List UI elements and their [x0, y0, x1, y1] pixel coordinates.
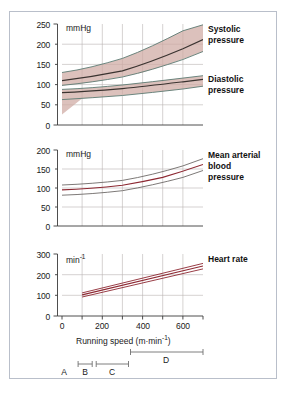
- ytick-label-100: 100: [24, 80, 50, 90]
- chart-panel-systolic-diastolic: 250 200 150 100 50 0 mmHg Systolic press…: [0, 0, 289, 140]
- y-axis-systolic: [54, 24, 58, 125]
- callout-mean-arterial-blood-pressure: Mean arterial blood pressure: [208, 150, 260, 183]
- ytick-label-50: 50: [24, 100, 50, 110]
- ytick-label-0: 0: [24, 121, 50, 131]
- bracket-label-B: B: [78, 367, 92, 377]
- intensity-zone-brackets: A B C D: [0, 340, 289, 393]
- ytick-label-100: 100: [24, 184, 50, 194]
- ytick-label-200: 200: [24, 40, 50, 50]
- xtick-label-600: 600: [172, 321, 194, 331]
- ytick-label-0: 0: [24, 312, 50, 322]
- x-axis-ticks: [62, 316, 203, 320]
- callout-diastolic-pressure: Diastolic pressure: [208, 74, 244, 96]
- callout-diastolic-line1: Diastolic: [208, 74, 244, 85]
- xtick-label-200: 200: [91, 321, 113, 331]
- callout-systolic-line1: Systolic: [208, 24, 244, 35]
- callout-map-line2: blood: [208, 161, 260, 172]
- y-unit-label-mmhg: mmHg: [66, 149, 91, 159]
- callout-map-line3: pressure: [208, 172, 260, 183]
- callout-map-line1: Mean arterial: [208, 150, 260, 161]
- ytick-label-200: 200: [24, 146, 50, 156]
- y-axis-mean-arterial: [54, 150, 58, 226]
- chart-panel-mean-arterial: 200 150 100 50 0 mmHg Mean arterial bloo…: [0, 138, 289, 242]
- ytick-label-250: 250: [24, 20, 50, 30]
- y-unit-label-min-inverse: min-1: [66, 253, 85, 265]
- callout-hr-line1: Heart rate: [208, 254, 248, 265]
- figure-root: 250 200 150 100 50 0 mmHg Systolic press…: [0, 0, 289, 393]
- ytick-label-150: 150: [24, 60, 50, 70]
- bracket-label-A: A: [57, 367, 71, 377]
- callout-diastolic-line2: pressure: [208, 85, 244, 96]
- callout-systolic-pressure: Systolic pressure: [208, 24, 244, 46]
- ytick-label-0: 0: [24, 222, 50, 232]
- bracket-marks: [0, 340, 289, 393]
- bracket-label-C: C: [105, 367, 119, 377]
- xtick-label-0: 0: [51, 321, 73, 331]
- bracket-label-D: D: [159, 355, 173, 365]
- y-unit-label-mmhg: mmHg: [66, 23, 91, 33]
- y-unit-base: min: [66, 255, 80, 265]
- chart-panel-heart-rate: 300 200 100 0 min-1 Heart rate 0 200 400…: [0, 240, 289, 340]
- ytick-label-100: 100: [24, 291, 50, 301]
- y-unit-exponent: -1: [80, 253, 86, 260]
- ytick-label-150: 150: [24, 165, 50, 175]
- ytick-label-300: 300: [24, 250, 50, 260]
- callout-systolic-line2: pressure: [208, 35, 244, 46]
- xtick-label-400: 400: [132, 321, 154, 331]
- y-axis-heart-rate: [54, 254, 58, 316]
- ytick-label-50: 50: [24, 203, 50, 213]
- ytick-label-200: 200: [24, 271, 50, 281]
- callout-heart-rate: Heart rate: [208, 254, 248, 265]
